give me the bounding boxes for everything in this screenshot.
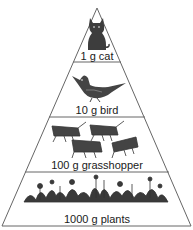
level-label-plants: 1000 g plants (20, 214, 174, 225)
food-pyramid-diagram: 1 g cat 10 g bird 100 g grasshopper 1000… (0, 0, 193, 230)
level-label-cat: 1 g cat (72, 51, 122, 62)
level-label-grasshopper: 100 g grasshopper (30, 160, 164, 171)
plants-icon (24, 175, 168, 202)
cat-icon (88, 18, 109, 50)
grasshoppers-icon (52, 121, 138, 158)
level-label-bird: 10 g bird (60, 105, 134, 116)
bird-icon (72, 75, 126, 102)
